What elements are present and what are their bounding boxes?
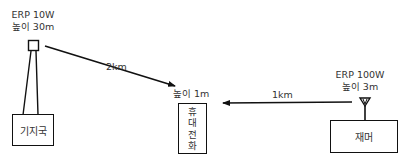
phone-label-char: 화: [188, 140, 197, 152]
jammer-erp-label: ERP 100W: [334, 69, 386, 80]
phone-label-char: 휴: [188, 106, 197, 118]
jammer-distance-label: 1km: [272, 89, 293, 100]
jammer-height-label: 높이 3m: [336, 81, 384, 92]
phone-height-label: 높이 1m: [173, 88, 209, 99]
jammer-antenna-icon: [360, 98, 370, 106]
base-antenna-icon: [29, 41, 39, 51]
base-height-label: 높이 30m: [8, 21, 58, 32]
tower-leg-right: [36, 51, 38, 115]
base-station-label: 기지국: [20, 123, 47, 138]
jammer-label: 재머: [355, 129, 373, 144]
tower-leg-left: [23, 51, 31, 115]
phone-label-char: 전: [188, 129, 197, 141]
base-erp-label: ERP 10W: [10, 9, 56, 20]
jammer-box: 재머: [330, 120, 398, 153]
phone-label-char: 대: [188, 117, 197, 129]
base-distance-label: 2km: [106, 61, 127, 72]
phone-box: 휴 대 전 화: [178, 103, 207, 154]
base-station-box: 기지국: [12, 114, 54, 146]
jammer-to-phone-arrow: [223, 102, 352, 103]
